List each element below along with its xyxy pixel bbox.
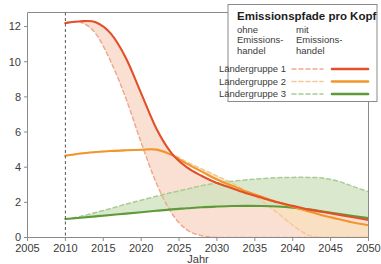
y-tick-label: 8	[15, 91, 21, 103]
y-tick-label: 12	[9, 20, 21, 32]
legend-column-header-ohne: handel	[237, 45, 266, 56]
legend-row-label: Ländergruppe 2	[219, 76, 286, 87]
legend: Emissionspfade pro KopfohneEmissions-han…	[219, 5, 377, 102]
y-tick-label: 4	[15, 161, 21, 173]
y-tick-label: 10	[9, 56, 21, 68]
y-tick-label: 2	[15, 196, 21, 208]
x-tick-label: 2005	[15, 242, 39, 254]
x-tick-label: 2050	[356, 242, 380, 254]
x-tick-label: 2010	[53, 242, 77, 254]
x-axis-title: Jahr	[187, 253, 209, 264]
x-tick-label: 2045	[318, 242, 342, 254]
chart-canvas: 0246810122005201020152020202520302035204…	[0, 0, 381, 264]
legend-title: Emissionspfade pro Kopf	[237, 10, 376, 22]
x-tick-label: 2015	[91, 242, 115, 254]
x-axis: 2005201020152020202520302035204020452050	[15, 238, 380, 255]
y-tick-label: 6	[15, 126, 21, 138]
emissions-pathways-chart: 0246810122005201020152020202520302035204…	[0, 0, 381, 264]
legend-column-header-ohne: ohne	[237, 24, 258, 35]
legend-column-header-mit: Emissions-	[296, 34, 342, 45]
legend-row-label: Ländergruppe 3	[219, 88, 286, 99]
legend-column-header-ohne: Emissions-	[237, 34, 283, 45]
legend-column-header-mit: mit	[296, 24, 309, 35]
x-tick-label: 2040	[280, 242, 304, 254]
legend-row-label: Ländergruppe 1	[219, 63, 286, 74]
x-tick-label: 2020	[129, 242, 153, 254]
y-axis: 024681012	[9, 20, 28, 243]
legend-column-header-mit: handel	[296, 45, 325, 56]
x-tick-label: 2035	[243, 242, 267, 254]
